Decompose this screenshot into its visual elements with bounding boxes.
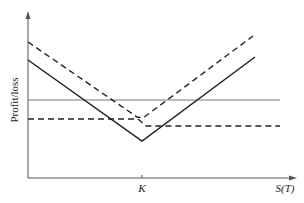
upper-dashed-series	[28, 36, 253, 118]
x-axis-label: S(T)	[276, 182, 295, 195]
y-axis-label: Profit/loss	[8, 77, 20, 122]
solid-v-series	[28, 57, 255, 141]
payoff-chart: Profit/loss K S(T)	[0, 0, 304, 203]
strike-label: K	[137, 182, 146, 194]
y-axis-arrow-icon	[26, 11, 31, 19]
x-axis-arrow-icon	[289, 176, 297, 181]
lower-dashed-series	[28, 119, 280, 126]
